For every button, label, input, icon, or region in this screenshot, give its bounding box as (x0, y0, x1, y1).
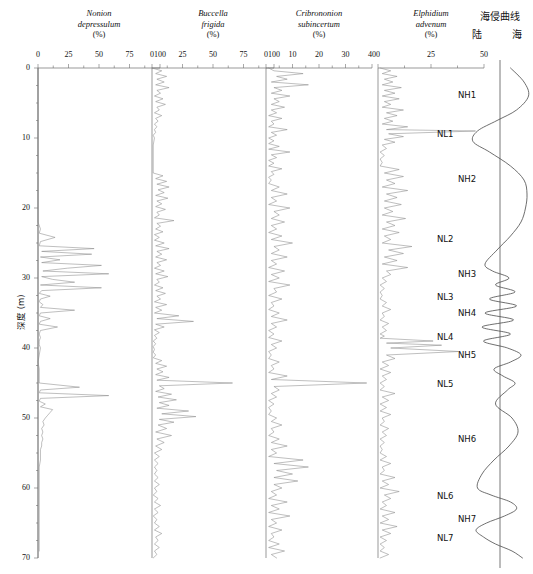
x-tick-label: 25 (419, 50, 443, 59)
foraminifera-depth-diagram: Nonion depressulum (%) Buccella frigida … (0, 0, 533, 574)
zone-label-nl5: NL5 (437, 379, 454, 389)
zone-label-nh1: NH1 (458, 90, 476, 100)
zone-label-nh5: NH5 (458, 350, 476, 360)
x-tick-label: 50 (201, 50, 225, 59)
zone-label-nl1: NL1 (437, 129, 454, 139)
x-tick-label: 30 (334, 50, 358, 59)
depth-tick-label: 40 (8, 343, 30, 352)
zone-label-nh2: NH2 (458, 174, 476, 184)
zone-label-nl2: NL2 (437, 234, 454, 244)
zone-label-nh3: NH3 (458, 269, 476, 279)
plot-canvas (0, 0, 533, 574)
x-tick-label: 75 (232, 50, 256, 59)
zone-label-nl6: NL6 (437, 491, 454, 501)
x-tick-label: 50 (87, 50, 111, 59)
depth-tick-label: 60 (8, 483, 30, 492)
x-tick-label: 10 (281, 50, 305, 59)
zone-label-nh4: NH4 (458, 308, 476, 318)
x-tick-label: 0 (26, 50, 50, 59)
x-tick-label: 20 (307, 50, 331, 59)
x-tick-label: 25 (57, 50, 81, 59)
depth-tick-label: 10 (8, 133, 30, 142)
x-tick-label: 0 (366, 50, 390, 59)
depth-tick-label: 50 (8, 413, 30, 422)
x-tick-label: 0 (254, 50, 278, 59)
depth-tick-label: 70 (8, 553, 30, 562)
x-tick-label: 0 (140, 50, 164, 59)
depth-tick-label: 20 (8, 203, 30, 212)
x-tick-label: 75 (118, 50, 142, 59)
zone-label-nl3: NL3 (437, 292, 454, 302)
zone-label-nh7: NH7 (458, 514, 476, 524)
zone-label-nh6: NH6 (458, 434, 476, 444)
zone-label-nl7: NL7 (437, 533, 454, 543)
depth-tick-label: 30 (8, 273, 30, 282)
x-tick-label: 25 (171, 50, 195, 59)
zone-label-nl4: NL4 (437, 332, 454, 342)
x-tick-label: 50 (472, 50, 496, 59)
depth-tick-label: 0 (8, 63, 30, 72)
